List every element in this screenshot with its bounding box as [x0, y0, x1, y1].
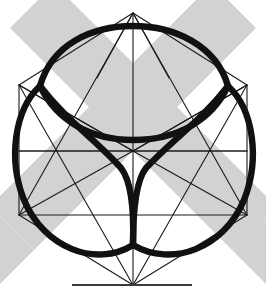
geometric-figure-svg: [0, 0, 266, 301]
figure-canvas: [0, 0, 266, 301]
